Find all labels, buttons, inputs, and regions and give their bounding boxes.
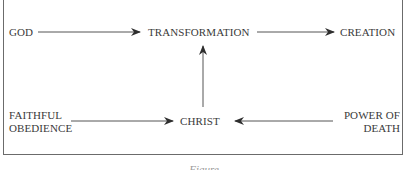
node-christ: CHRIST — [180, 115, 220, 128]
node-faithful-obedience-line-1: FAITHFUL — [9, 109, 72, 122]
node-transformation: TRANSFORMATION — [148, 26, 250, 39]
node-power-of-death-line-1: POWER OF — [344, 109, 400, 122]
node-power-of-death: POWER OF DEATH — [344, 109, 400, 135]
node-faithful-obedience: FAITHFUL OBEDIENCE — [9, 109, 72, 135]
node-creation: CREATION — [340, 26, 395, 39]
node-power-of-death-line-2: DEATH — [344, 122, 400, 135]
node-faithful-obedience-line-2: OBEDIENCE — [9, 122, 72, 135]
figure-caption: Figure — [0, 163, 408, 170]
node-god: GOD — [9, 26, 33, 39]
